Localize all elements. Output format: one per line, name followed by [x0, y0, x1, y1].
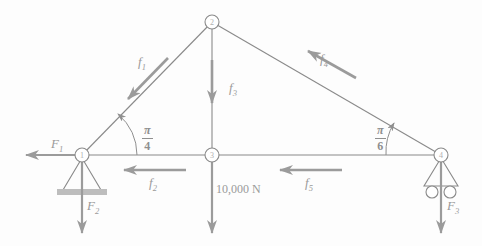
label-F1-subscript: 1 — [59, 144, 63, 154]
label-f3: f3 — [229, 81, 237, 97]
truss-diagram: 1 2 3 4 f1 f2 f3 f4 f5 F1 F2 F3 10,000 N… — [0, 0, 482, 246]
angle-arc-pi-over-6 — [386, 123, 394, 155]
force-arrow-f1 — [128, 58, 168, 99]
label-F1-symbol: F — [51, 136, 59, 151]
angle-pi-over-6-denominator: 6 — [375, 140, 386, 153]
label-f2: f2 — [149, 176, 157, 192]
applied-load-label: 10,000 N — [216, 183, 261, 195]
label-f4: f4 — [320, 52, 328, 68]
label-f5: f5 — [305, 176, 313, 192]
force-arrow-f4 — [308, 51, 356, 78]
angle-arc-pi-over-4 — [118, 114, 137, 155]
node-label-3: 3 — [206, 152, 218, 160]
angle-label-pi-over-4: π 4 — [142, 124, 153, 152]
label-f2-subscript: 2 — [153, 183, 157, 193]
label-f3-subscript: 3 — [233, 88, 237, 98]
node-label-2: 2 — [206, 19, 218, 27]
label-f1-subscript: 1 — [142, 62, 146, 72]
node-label-4: 4 — [435, 152, 447, 160]
label-F2: F2 — [87, 199, 99, 215]
angle-label-pi-over-6: π 6 — [375, 124, 386, 152]
label-F1: F1 — [51, 137, 63, 153]
truss-svg — [0, 0, 482, 246]
member-2-4 — [212, 22, 441, 155]
label-f5-subscript: 5 — [309, 183, 313, 193]
label-F2-subscript: 2 — [95, 206, 99, 216]
label-F2-symbol: F — [87, 198, 95, 213]
angle-pi-over-4-denominator: 4 — [142, 140, 153, 153]
label-f4-subscript: 4 — [324, 59, 328, 69]
angle-pi-over-4-numerator: π — [142, 124, 153, 137]
angle-pi-over-6-numerator: π — [375, 124, 386, 137]
label-F3-symbol: F — [447, 198, 455, 213]
node-label-1: 1 — [76, 152, 88, 160]
label-f1: f1 — [138, 55, 146, 71]
label-F3-subscript: 3 — [455, 206, 459, 216]
label-F3: F3 — [447, 199, 459, 215]
